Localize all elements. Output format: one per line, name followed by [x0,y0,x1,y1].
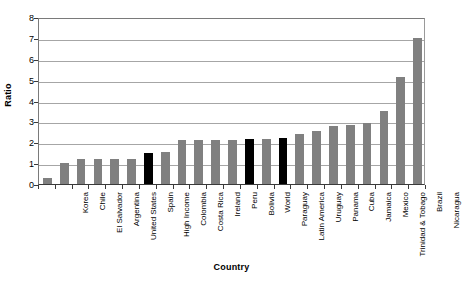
bar [178,140,187,184]
bar [329,126,338,184]
y-axis-title: Ratio [0,0,16,190]
bar [346,125,355,184]
bar [380,111,389,184]
bar [295,134,304,184]
plot-area [38,18,425,185]
bar [312,131,321,184]
bar [228,140,237,184]
x-axis-title: Country [38,262,425,272]
y-axis-tick-labels: 012345678 [20,18,34,185]
bar [144,153,153,184]
bar [245,139,254,184]
bar [43,178,52,184]
bars-layer [39,19,424,184]
x-axis-category-label: Nicaragua [421,189,466,259]
bar [110,159,119,184]
x-axis-category-labels: KoreaChileEl SalvadorArgentinaUnited Sta… [38,189,425,259]
bar [396,77,405,185]
bar [127,159,136,184]
bar [194,140,203,184]
bar [77,159,86,184]
bar [94,159,103,184]
bar [279,138,288,184]
bar [161,152,170,184]
bar [211,140,220,184]
bar [413,38,422,184]
bar [363,123,372,184]
bar [262,139,271,184]
bar [60,163,69,184]
y-axis-title-text: Ratio [3,83,13,107]
